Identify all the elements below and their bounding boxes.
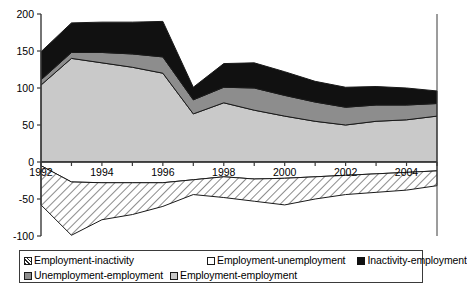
x-tick-label: 2004 [395,166,419,178]
y-tick-label: -100 [13,230,34,242]
legend-label: Employment-unemployment [217,255,345,266]
x-tick-label: 1996 [151,166,175,178]
legend-item-inactivity-employment[interactable]: Inactivity-employment [357,253,466,268]
legend-label: Employment-employment [180,270,297,281]
x-tick-label: 1998 [212,166,236,178]
legend-row-1: Employment-inactivity Employment-unemplo… [24,253,422,268]
legend-label: Employment-inactivity [34,255,134,266]
y-tick-label: -50 [19,193,34,205]
legend-swatch-black-icon [357,257,365,265]
x-tick-label: 2000 [273,166,297,178]
x-tick-label: 1992 [29,166,53,178]
legend-item-unemployment-employment[interactable]: Unemployment-employment [24,268,163,283]
legend-swatch-white-icon [207,257,215,265]
legend-swatch-light-gray-icon [170,272,178,280]
plot-area: -100-50050100150200 19921994199619982000… [0,0,460,248]
x-tick-label: 2002 [334,166,358,178]
x-tick-label: 1994 [90,166,114,178]
legend-label: Unemployment-employment [34,270,163,281]
y-tick-label: 50 [22,119,34,131]
y-tick-label: 100 [16,82,34,94]
y-axis-tick-labels: -100-50050100150200 [13,8,34,242]
area-chart-svg: -100-50050100150200 19921994199619982000… [0,0,460,248]
chart-legend: Employment-inactivity Employment-unemplo… [19,250,423,283]
legend-item-employment-inactivity[interactable]: Employment-inactivity [24,253,134,268]
positive-stack-group [41,21,437,162]
legend-row-2: Unemployment-employment Employment-emplo… [24,268,422,283]
legend-item-employment-employment[interactable]: Employment-employment [170,268,297,283]
legend-swatch-dark-gray-icon [24,272,32,280]
y-tick-label: 200 [16,8,34,20]
legend-label: Inactivity-employment [367,255,466,266]
y-tick-label: 150 [16,45,34,57]
legend-swatch-hatch-icon [24,257,32,265]
legend-item-employment-unemployment[interactable]: Employment-unemployment [207,253,345,268]
